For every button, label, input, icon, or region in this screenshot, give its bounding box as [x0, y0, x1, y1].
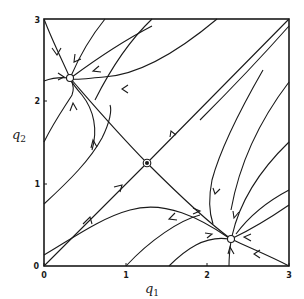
- x-axis: 0 1 2 3 q1: [41, 263, 292, 298]
- trajectory-lr-to-corner: [231, 239, 289, 266]
- arrow-icon: [169, 213, 177, 220]
- trajectory-lr-right2: [236, 190, 289, 234]
- arrow-icon: [122, 85, 128, 93]
- trajectory-top-right: [200, 26, 289, 120]
- y-tick-label-1: 1: [34, 180, 40, 189]
- fixed-point-lower-right-stable-node: [228, 236, 235, 243]
- trajectories: [44, 19, 289, 266]
- arrow-icon: [213, 188, 220, 194]
- x-tick-label-3: 3: [286, 271, 292, 280]
- trajectory-lr-from-top: [210, 70, 263, 224]
- arrow-icon: [205, 233, 212, 238]
- arrow-icon: [114, 185, 122, 192]
- trajectory-lr-right: [232, 142, 289, 236]
- arrow-icon: [93, 66, 101, 72]
- fixed-point-saddle: [143, 159, 151, 167]
- fixed-point-upper-left-stable-node: [67, 75, 74, 82]
- trajectory-ul-from-below: [71, 80, 95, 150]
- trajectory-lr-from-bottom: [229, 241, 231, 266]
- trajectory-bottom-mid: [126, 215, 200, 266]
- trajectory-lr-from-bottom-left: [169, 238, 229, 266]
- x-tick-label-2: 2: [204, 271, 210, 280]
- y-tick-label-2: 2: [34, 97, 40, 106]
- arrow-icon: [70, 103, 77, 111]
- trajectory-right-upper: [231, 82, 289, 210]
- trajectory-ul-top: [71, 19, 105, 76]
- trajectory-left-upper: [44, 105, 111, 204]
- trajectory-ul-from-left: [44, 80, 73, 142]
- trajectory-ul-to-corner: [44, 19, 70, 78]
- y-tick-label-0: 0: [33, 262, 39, 271]
- trajectory-lr-from-right: [233, 205, 289, 238]
- x-axis-label: q1: [145, 281, 159, 298]
- arrow-icon: [244, 234, 251, 241]
- arrow-icon: [228, 247, 234, 254]
- x-tick-label-0: 0: [41, 271, 47, 280]
- arrow-icon: [58, 73, 64, 80]
- phase-portrait: 0 1 2 3 q1 0 1 2 3 q2: [0, 0, 304, 299]
- x-tick-label-1: 1: [123, 271, 129, 280]
- y-axis-label: q2: [12, 127, 26, 144]
- y-axis: 0 1 2 3 q2: [12, 16, 47, 271]
- y-tick-label-3: 3: [34, 16, 40, 25]
